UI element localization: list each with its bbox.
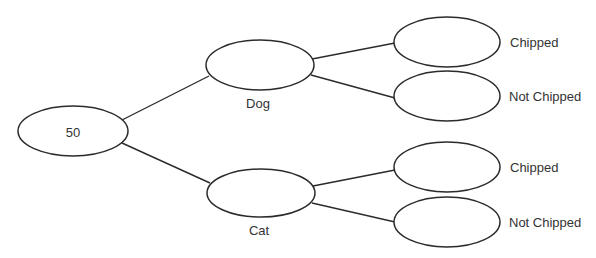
- cat-notchipped-label: Not Chipped: [509, 215, 581, 230]
- cat-chipped-label: Chipped: [510, 160, 558, 175]
- edge-root-dog: [122, 76, 209, 120]
- node-dog: [206, 40, 314, 90]
- edge-cat-chipped: [313, 170, 395, 186]
- node-cat-notchipped: [394, 197, 500, 247]
- edge-dog-notchipped: [311, 75, 395, 98]
- edge-root-cat: [122, 143, 210, 183]
- dog-chipped-label: Chipped: [510, 35, 558, 50]
- edge-dog-chipped: [312, 43, 395, 59]
- node-dog-notchipped: [394, 71, 500, 121]
- dog-label: Dog: [246, 96, 270, 111]
- tree-diagram-canvas: [0, 0, 596, 258]
- root-label: 50: [66, 125, 80, 140]
- cat-label: Cat: [249, 223, 269, 238]
- node-cat-chipped: [394, 142, 500, 192]
- node-cat: [207, 169, 315, 217]
- node-dog-chipped: [394, 17, 500, 67]
- dog-notchipped-label: Not Chipped: [509, 89, 581, 104]
- edge-cat-notchipped: [312, 203, 395, 222]
